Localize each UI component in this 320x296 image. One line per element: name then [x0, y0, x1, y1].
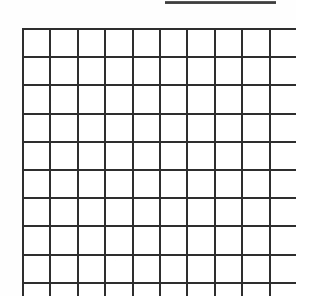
grid-cell[interactable]: [105, 226, 132, 254]
grid-cell[interactable]: [78, 170, 105, 198]
grid-cell[interactable]: [78, 142, 105, 170]
grid-cell[interactable]: [133, 283, 160, 296]
grid-cell[interactable]: [133, 226, 160, 254]
grid-cell[interactable]: [23, 198, 50, 226]
grid-cell[interactable]: [133, 142, 160, 170]
grid-cell[interactable]: [50, 226, 77, 254]
grid-cell[interactable]: [78, 29, 105, 57]
grid-cell[interactable]: [133, 170, 160, 198]
grid-cell[interactable]: [50, 114, 77, 142]
grid-cell[interactable]: [105, 283, 132, 296]
grid-cell[interactable]: [187, 170, 214, 198]
grid-cell[interactable]: [270, 283, 296, 296]
grid-cell[interactable]: [160, 283, 187, 296]
grid-cell[interactable]: [23, 29, 50, 57]
grid-cell[interactable]: [270, 114, 296, 142]
grid-cell[interactable]: [50, 142, 77, 170]
grid-cell[interactable]: [242, 114, 269, 142]
grid-cell[interactable]: [270, 198, 296, 226]
grid-cell[interactable]: [242, 29, 269, 57]
grid-cell[interactable]: [242, 198, 269, 226]
grid-cell[interactable]: [242, 170, 269, 198]
grid-cell[interactable]: [270, 142, 296, 170]
grid-cell[interactable]: [23, 255, 50, 283]
grid-cell[interactable]: [160, 226, 187, 254]
grid-cell[interactable]: [242, 226, 269, 254]
grid-cell[interactable]: [78, 114, 105, 142]
grid-cell[interactable]: [215, 170, 242, 198]
grid-cell[interactable]: [105, 85, 132, 113]
grid-cell[interactable]: [160, 85, 187, 113]
grid-cell[interactable]: [242, 255, 269, 283]
grid-cell[interactable]: [50, 170, 77, 198]
grid-cell[interactable]: [160, 255, 187, 283]
grid-cell[interactable]: [50, 255, 77, 283]
grid-cell[interactable]: [270, 85, 296, 113]
grid-cell[interactable]: [270, 57, 296, 85]
grid-cell[interactable]: [78, 198, 105, 226]
grid-cell[interactable]: [78, 85, 105, 113]
grid-cell[interactable]: [215, 85, 242, 113]
grid-cell[interactable]: [133, 57, 160, 85]
grid-cell[interactable]: [242, 283, 269, 296]
grid-cell[interactable]: [50, 283, 77, 296]
grid-cell[interactable]: [105, 57, 132, 85]
grid-cell[interactable]: [187, 255, 214, 283]
grid-cell[interactable]: [160, 114, 187, 142]
grid-cell[interactable]: [23, 226, 50, 254]
grid-cell[interactable]: [78, 226, 105, 254]
grid-cell[interactable]: [133, 198, 160, 226]
grid-cell[interactable]: [187, 57, 214, 85]
grid-cell[interactable]: [242, 57, 269, 85]
grid-cell[interactable]: [105, 114, 132, 142]
grid-cell[interactable]: [50, 198, 77, 226]
grid-cell[interactable]: [270, 255, 296, 283]
grid-cell[interactable]: [23, 114, 50, 142]
grid-cell[interactable]: [215, 283, 242, 296]
grid-cell[interactable]: [215, 114, 242, 142]
grid-cell[interactable]: [187, 29, 214, 57]
grid-cell[interactable]: [23, 283, 50, 296]
grid-cell[interactable]: [242, 142, 269, 170]
grid-cell[interactable]: [160, 29, 187, 57]
grid-cell[interactable]: [23, 85, 50, 113]
grid-cell[interactable]: [215, 255, 242, 283]
grid-cell[interactable]: [50, 29, 77, 57]
grid-cell[interactable]: [160, 170, 187, 198]
grid-cell[interactable]: [105, 170, 132, 198]
grid-cell[interactable]: [160, 57, 187, 85]
grid-cell[interactable]: [105, 142, 132, 170]
grid-cell[interactable]: [270, 29, 296, 57]
grid-cell[interactable]: [50, 57, 77, 85]
grid-cell[interactable]: [215, 29, 242, 57]
grid-cell[interactable]: [215, 226, 242, 254]
grid-cell[interactable]: [215, 57, 242, 85]
grid-cell[interactable]: [78, 57, 105, 85]
grid-cell[interactable]: [105, 29, 132, 57]
grid-cell[interactable]: [270, 170, 296, 198]
grid-cell[interactable]: [133, 85, 160, 113]
grid-cell[interactable]: [23, 170, 50, 198]
grid-cell[interactable]: [105, 255, 132, 283]
grid-cell[interactable]: [215, 198, 242, 226]
grid-cell[interactable]: [133, 255, 160, 283]
grid-cell[interactable]: [160, 198, 187, 226]
grid-cell[interactable]: [78, 283, 105, 296]
grid-cell[interactable]: [50, 85, 77, 113]
grid-cell[interactable]: [105, 198, 132, 226]
grid-cell[interactable]: [215, 142, 242, 170]
grid-cell[interactable]: [133, 114, 160, 142]
grid-cell[interactable]: [23, 142, 50, 170]
grid-cell[interactable]: [187, 283, 214, 296]
grid-cell[interactable]: [160, 142, 187, 170]
grid-cell[interactable]: [187, 85, 214, 113]
grid-cell[interactable]: [187, 114, 214, 142]
grid-cell[interactable]: [187, 226, 214, 254]
grid-cell[interactable]: [78, 255, 105, 283]
grid-cell[interactable]: [133, 29, 160, 57]
grid-cell[interactable]: [242, 85, 269, 113]
grid-cell[interactable]: [187, 198, 214, 226]
grid-cell[interactable]: [187, 142, 214, 170]
grid-cell[interactable]: [23, 57, 50, 85]
grid-cell[interactable]: [270, 226, 296, 254]
